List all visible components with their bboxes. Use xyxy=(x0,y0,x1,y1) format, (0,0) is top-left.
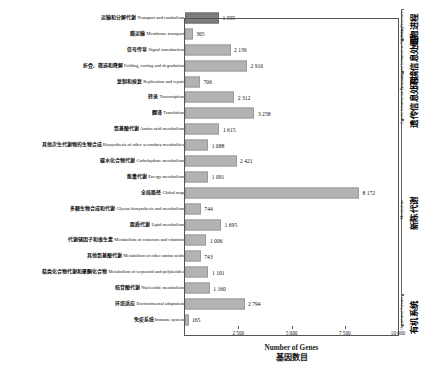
category-label-en: Transcription xyxy=(159,94,184,99)
bar xyxy=(185,219,221,230)
bar-value-label: 165 xyxy=(189,317,201,323)
bar-track: 165 xyxy=(185,314,398,325)
category-label-zh: 其他氨基酸代谢 xyxy=(87,253,123,258)
category-label: 转录 Transcription xyxy=(148,95,184,100)
bar-row: 运输和分解代谢 Transport and catabolism1 595 xyxy=(0,10,443,26)
bar-value-label: 1 615 xyxy=(219,126,235,132)
x-axis-tick-label: 2 500 xyxy=(232,330,244,336)
x-axis-title-en: Number of Genes xyxy=(184,344,399,352)
category-label-zh: 折叠、筛选和降解 xyxy=(83,62,124,67)
x-axis: 2 5005 0007 50010 000 xyxy=(184,326,399,340)
bar xyxy=(185,140,208,151)
category-label-zh: 信号传导 xyxy=(127,46,148,51)
category-label: 多糖生物合成和代谢 Glycan biosynthesis and metabo… xyxy=(70,206,184,211)
bar-value-label: 1 695 xyxy=(221,222,237,228)
bar-value-label: 743 xyxy=(201,253,213,259)
category-label: 能量代谢 Energy metabolism xyxy=(127,174,184,179)
bar-track: 1 615 xyxy=(185,124,398,135)
bar xyxy=(185,187,359,198)
bar-row: 其他氨基酸代谢 Metabolism of other amino acids7… xyxy=(0,248,443,264)
category-label-en: Global map xyxy=(162,189,184,194)
group-label-en: Organismal Persons xyxy=(399,297,404,330)
category-label-zh: 碳水化合物代谢 xyxy=(100,158,136,163)
bar xyxy=(185,60,247,71)
bar xyxy=(185,92,234,103)
bar-rows: 运输和分解代谢 Transport and catabolism1 595膜运输… xyxy=(0,10,443,328)
bar-track: 744 xyxy=(185,203,398,214)
category-label: 免疫系统 Immune system xyxy=(134,317,184,322)
category-label: 复制和修复 Replication and repair xyxy=(117,79,184,84)
category-label-en: Glycan biosynthesis and metabolism xyxy=(117,205,185,210)
bar-value-label: 744 xyxy=(201,206,213,212)
category-label: 翻译 Translation xyxy=(152,111,184,116)
category-group-annotations: Cellular Processes细胞进程Environmental Info… xyxy=(399,8,443,326)
bar-row: 核苷酸代谢 Nucleotide metabolism1 160 xyxy=(0,280,443,296)
category-label-zh: 运输和分解代谢 xyxy=(101,14,137,19)
bar-row: 脂质代谢 Lipid metabolism1 695 xyxy=(0,217,443,233)
bar-row: 折叠、筛选和降解 Folding, sorting and degradatio… xyxy=(0,58,443,74)
category-label-zh: 萜类化合物代谢和聚酮化合物 xyxy=(42,269,108,274)
bar xyxy=(185,267,208,278)
bar-track: 2 421 xyxy=(185,155,398,166)
category-label: 运输和分解代谢 Transport and catabolism xyxy=(101,15,184,20)
category-label: 脂质代谢 Lipid metabolism xyxy=(130,222,184,227)
bar xyxy=(185,108,254,119)
group-label-zh: 有机系统 xyxy=(407,300,419,334)
category-group: Metabolism新陈代谢 xyxy=(399,120,443,295)
category-label: 膜运输 Membrane transport xyxy=(130,31,184,36)
bar-track: 1 160 xyxy=(185,283,398,294)
bar xyxy=(185,203,201,214)
bar xyxy=(185,155,237,166)
bar-row: 能量代谢 Energy metabolism1 091 xyxy=(0,169,443,185)
category-label: 全局路径 Global map xyxy=(141,190,184,195)
bar-track: 1 088 xyxy=(185,140,398,151)
bar-value-label: 2 139 xyxy=(231,47,247,53)
bar-row: 环境适应 Environmental adaptation2 794 xyxy=(0,296,443,312)
bar xyxy=(185,251,201,262)
bar-row: 全局路径 Global map8 172 xyxy=(0,185,443,201)
category-label-zh: 能量代谢 xyxy=(127,173,148,178)
category-label-en: Energy metabolism xyxy=(148,173,184,178)
plot-area: 运输和分解代谢 Transport and catabolism1 595膜运输… xyxy=(0,10,443,340)
category-label-zh: 代谢辅因子和维生素 xyxy=(68,237,114,242)
bar xyxy=(185,298,245,309)
category-label: 代谢辅因子和维生素 Metabolism of cofactors and vi… xyxy=(68,238,184,243)
bar-row: 碳水化合物代谢 Carbohydrate metabolism2 421 xyxy=(0,153,443,169)
category-label-en: Metabolism of cofactors and vitamins xyxy=(114,237,184,242)
category-label: 萜类化合物代谢和聚酮化合物 Metabolism of terpenoid an… xyxy=(42,270,184,275)
x-axis-tick-label: 10 000 xyxy=(391,330,405,336)
group-label-en: Genetic Information Processing xyxy=(399,72,404,124)
x-axis-title: Number of Genes 基因数目 xyxy=(184,344,399,362)
category-label-en: Lipid metabolism xyxy=(151,221,184,226)
category-group: Genetic Information Processing遗传信息处理 xyxy=(399,72,443,120)
category-label-zh: 免疫系统 xyxy=(134,316,155,321)
category-label-en: Biosynthesis of other secondary metaboli… xyxy=(103,142,184,147)
x-axis-tick-label: 5 000 xyxy=(286,330,298,336)
bar-value-label: 1 006 xyxy=(206,237,222,243)
category-label-en: Environmental adaptation xyxy=(136,301,184,306)
bar-value-label: 2 910 xyxy=(247,63,263,69)
category-label-zh: 膜运输 xyxy=(130,30,146,35)
category-label-zh: 多糖生物合成和代谢 xyxy=(70,205,116,210)
bar-track: 1 091 xyxy=(185,171,398,182)
bar-row: 其他次生代谢物的生物合成 Biosynthesis of other secon… xyxy=(0,137,443,153)
bar-value-label: 1 160 xyxy=(210,285,226,291)
category-label: 信号传导 Signal transduction xyxy=(127,47,184,52)
bar-track: 706 xyxy=(185,76,398,87)
bar-track: 2 910 xyxy=(185,60,398,71)
bar-value-label: 1 595 xyxy=(219,15,235,21)
bar-value-label: 1 091 xyxy=(208,174,224,180)
bar-row: 信号传导 Signal transduction2 139 xyxy=(0,42,443,58)
category-group: Organismal Persons有机系统 xyxy=(399,295,443,327)
bar-row: 翻译 Translation3 258 xyxy=(0,105,443,121)
bar-track: 1 101 xyxy=(185,267,398,278)
bar-track: 2 139 xyxy=(185,44,398,55)
category-label-en: Amino acid metabolism xyxy=(140,126,184,131)
category-label-en: Translation xyxy=(163,110,184,115)
bar-track: 2 794 xyxy=(185,298,398,309)
category-label-en: Metabolism of terpenoid and polyketides xyxy=(108,269,184,274)
category-label-zh: 全局路径 xyxy=(141,189,162,194)
bar xyxy=(185,76,200,87)
bar-value-label: 1 088 xyxy=(208,142,224,148)
bar-value-label: 365 xyxy=(193,31,205,37)
